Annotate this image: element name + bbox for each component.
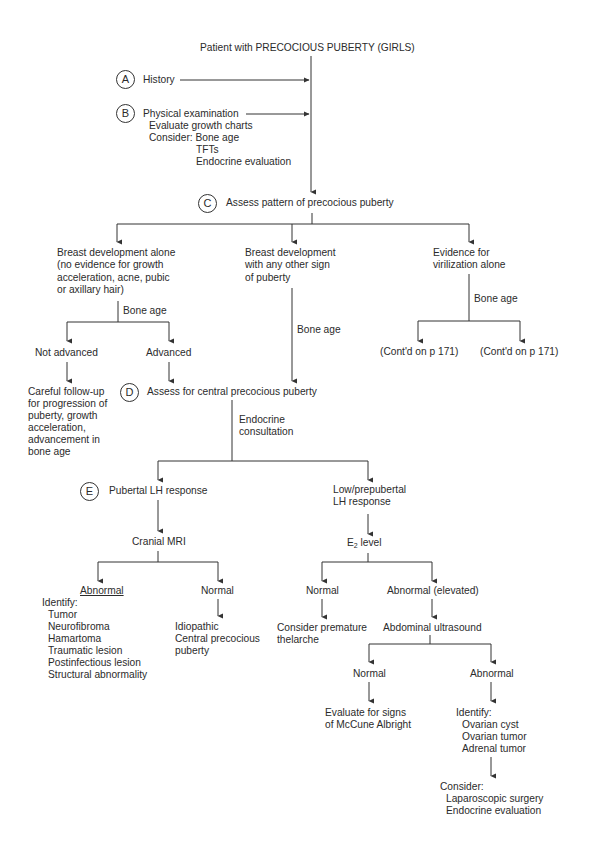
edge-label-bone-age-left: Bone age bbox=[123, 305, 167, 317]
consider-item-1: Laparoscopic surgery bbox=[446, 793, 543, 805]
mri-abnormal-item-2: Neurofibroma bbox=[48, 621, 110, 633]
step-b-detail-4: Endocrine evaluation bbox=[196, 156, 291, 168]
branch-breast-alone-3: acceleration, acne, pubic bbox=[57, 272, 170, 284]
step-b-marker: B bbox=[116, 104, 135, 123]
edge-label-bone-age-mid: Bone age bbox=[297, 324, 341, 336]
us-abnormal-item-3: Adrenal tumor bbox=[462, 743, 526, 755]
node-mri-normal: Normal bbox=[201, 585, 234, 597]
node-cranial-mri: Cranial MRI bbox=[132, 536, 186, 548]
node-careful-followup-4: acceleration, bbox=[28, 422, 86, 434]
step-c-label: Assess pattern of precocious puberty bbox=[226, 197, 394, 209]
node-careful-followup-1: Careful follow-up bbox=[28, 386, 104, 398]
node-contd-2: (Cont'd on p 171) bbox=[480, 346, 558, 358]
us-abnormal-item-1: Ovarian cyst bbox=[462, 719, 519, 731]
step-c-marker: C bbox=[198, 194, 217, 213]
step-a-label: History bbox=[143, 74, 175, 86]
consider-item-2: Endocrine evaluation bbox=[446, 805, 541, 817]
step-a-marker: A bbox=[116, 70, 135, 89]
consider-item-0: Consider: bbox=[440, 781, 484, 793]
node-low-lh-2: LH response bbox=[333, 496, 391, 508]
step-e-label: Pubertal LH response bbox=[109, 485, 208, 497]
e2-base: E bbox=[347, 537, 354, 548]
step-b-detail-1: Evaluate growth charts bbox=[149, 120, 253, 132]
mri-abnormal-item-1: Tumor bbox=[48, 609, 77, 621]
node-idiopathic-3: puberty bbox=[175, 645, 209, 657]
node-us-normal: Normal bbox=[353, 668, 386, 680]
step-b-detail-2: Consider: Bone age bbox=[149, 132, 239, 144]
edge-label-endocrine-2: consultation bbox=[239, 426, 293, 438]
us-abnormal-item-0: Identify: bbox=[456, 707, 492, 719]
node-idiopathic-2: Central precocious bbox=[175, 633, 260, 645]
node-us-abnormal: Abnormal bbox=[470, 668, 514, 680]
edge-label-bone-age-right: Bone age bbox=[474, 293, 518, 305]
branch-breast-other-3: of puberty bbox=[245, 272, 290, 284]
edge-label-endocrine-1: Endocrine bbox=[239, 414, 285, 426]
step-d-label: Assess for central precocious puberty bbox=[147, 386, 317, 398]
node-e2-normal: Normal bbox=[306, 585, 339, 597]
e2-rest: level bbox=[358, 537, 382, 548]
mri-abnormal-item-0: Identify: bbox=[42, 597, 78, 609]
node-idiopathic-1: Idiopathic bbox=[175, 621, 219, 633]
branch-breast-other-1: Breast development bbox=[245, 247, 336, 259]
node-mri-abnormal: Abnormal bbox=[80, 585, 124, 597]
branch-virilization-2: virilization alone bbox=[433, 259, 505, 271]
node-e2-level: E2 level bbox=[347, 537, 382, 552]
node-low-lh-1: Low/prepubertal bbox=[333, 484, 406, 496]
node-careful-followup-2: for progression of bbox=[28, 398, 107, 410]
node-contd-1: (Cont'd on p 171) bbox=[380, 346, 458, 358]
node-premature-thelarche-2: thelarche bbox=[277, 634, 319, 646]
node-careful-followup-6: bone age bbox=[28, 446, 71, 458]
mri-abnormal-item-3: Hamartoma bbox=[48, 633, 101, 645]
node-mccune-1: Evaluate for signs bbox=[325, 707, 406, 719]
mri-abnormal-item-4: Traumatic lesion bbox=[48, 645, 122, 657]
node-e2-abnormal: Abnormal (elevated) bbox=[387, 585, 479, 597]
us-abnormal-item-2: Ovarian tumor bbox=[462, 731, 527, 743]
node-advanced: Advanced bbox=[146, 347, 191, 359]
branch-virilization-1: Evidence for bbox=[433, 247, 490, 259]
node-careful-followup-5: advancement in bbox=[28, 434, 100, 446]
node-premature-thelarche-1: Consider premature bbox=[277, 622, 367, 634]
branch-breast-other-2: with any other sign bbox=[245, 259, 330, 271]
step-d-marker: D bbox=[120, 383, 139, 402]
step-e-marker: E bbox=[80, 482, 99, 501]
node-careful-followup-3: puberty, growth bbox=[28, 410, 97, 422]
mri-abnormal-item-6: Structural abnormality bbox=[48, 669, 147, 681]
branch-breast-alone-2: (no evidence for growth bbox=[57, 259, 163, 271]
node-not-advanced: Not advanced bbox=[35, 347, 98, 359]
node-mccune-2: of McCune Albright bbox=[325, 719, 411, 731]
step-b-label: Physical examination bbox=[143, 108, 239, 120]
flowchart-title: Patient with PRECOCIOUS PUBERTY (GIRLS) bbox=[200, 42, 415, 54]
branch-breast-alone-1: Breast development alone bbox=[57, 247, 175, 259]
branch-breast-alone-4: or axillary hair) bbox=[57, 284, 124, 296]
step-b-detail-3: TFTs bbox=[196, 144, 219, 156]
node-abdominal-ultrasound: Abdominal ultrasound bbox=[383, 622, 482, 634]
mri-abnormal-item-5: Postinfectious lesion bbox=[48, 657, 141, 669]
